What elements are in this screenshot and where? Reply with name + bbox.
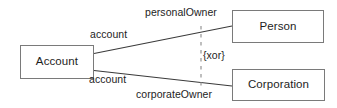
role-label-account-lower: account bbox=[89, 74, 126, 85]
uml-class-diagram: Account Person Corporation personalOwner… bbox=[0, 0, 337, 108]
class-name-account: Account bbox=[36, 56, 78, 68]
role-label-account-upper: account bbox=[90, 29, 127, 40]
role-label-personal-owner: personalOwner bbox=[145, 7, 217, 18]
class-box-account[interactable]: Account bbox=[20, 45, 94, 79]
xor-constraint-label: {xor} bbox=[203, 50, 225, 61]
class-box-corporation[interactable]: Corporation bbox=[232, 69, 325, 101]
class-box-person[interactable]: Person bbox=[232, 10, 324, 43]
class-name-person: Person bbox=[259, 21, 296, 33]
role-label-corporate-owner: corporateOwner bbox=[136, 89, 212, 100]
class-name-corporation: Corporation bbox=[248, 79, 309, 91]
